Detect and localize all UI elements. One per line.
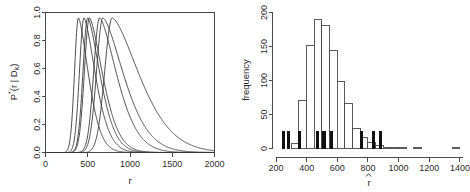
histogram-bar <box>337 82 345 149</box>
density-ytick-3: 0.6 <box>32 62 42 75</box>
ylabel-close: ) <box>8 64 19 67</box>
histogram-xtick-label-5: 1200 <box>419 163 439 173</box>
histogram-panel: 0 50 100 150 200 frequency 2004006008001… <box>235 0 470 192</box>
density-ytick-5: 1.0 <box>32 6 42 19</box>
histogram-bar <box>399 148 407 149</box>
density-y-axis-title: P*(r | Dk) <box>7 64 20 101</box>
density-xtick-3: 1500 <box>162 159 182 169</box>
density-x-ticks <box>46 153 215 157</box>
density-xtick-2: 1000 <box>120 159 140 169</box>
histogram-xtick-label-1: 400 <box>299 163 314 173</box>
rhat-letter: r <box>367 177 370 188</box>
histogram-xtick-label-3: 800 <box>360 163 375 173</box>
histogram-bar <box>322 26 330 149</box>
histogram-bar <box>345 103 353 148</box>
histogram-plot-svg: 0 50 100 150 200 frequency 2004006008001… <box>235 0 470 192</box>
density-plot-svg: 0.0 0.2 0.4 0.6 0.8 1.0 P*(r | Dk) <box>0 0 235 192</box>
density-curve-group <box>46 18 215 153</box>
histogram-xtick-label-0: 200 <box>268 163 283 173</box>
figure-container: 0.0 0.2 0.4 0.6 0.8 1.0 P*(r | Dk) <box>0 0 470 192</box>
histogram-bar-group <box>291 20 460 149</box>
density-y-tick-labels: 0.0 0.2 0.4 0.6 0.8 1.0 <box>32 6 42 159</box>
curve-1 <box>46 18 215 152</box>
density-xtick-1: 500 <box>80 159 95 169</box>
histogram-bar <box>314 20 322 149</box>
histogram-xtick-label-6: 1400 <box>450 163 470 173</box>
histogram-bar <box>307 45 315 148</box>
density-x-axis-title: r <box>128 175 131 186</box>
histogram-ytick-2: 100 <box>259 73 269 88</box>
density-xtick-0: 0 <box>43 159 48 169</box>
density-xtick-4: 2000 <box>204 159 224 169</box>
histogram-xtick-label-4: 1000 <box>389 163 409 173</box>
histogram-bar <box>353 129 361 149</box>
histogram-y-tick-labels: 0 50 100 150 200 <box>259 5 269 151</box>
density-ytick-2: 0.4 <box>32 90 42 103</box>
histogram-x-ticks: 200400600800100012001400 <box>268 158 469 174</box>
density-ytick-4: 0.8 <box>32 34 42 47</box>
density-x-tick-labels: 0 500 1000 1500 2000 <box>43 159 225 169</box>
histogram-xtick-label-2: 600 <box>330 163 345 173</box>
histogram-bar <box>291 144 299 149</box>
histogram-bar <box>414 147 422 148</box>
histogram-bar <box>452 148 460 149</box>
svg-text:P*(r | Dk): P*(r | Dk) <box>7 64 20 101</box>
histogram-bar <box>391 148 399 149</box>
histogram-ytick-1: 50 <box>259 109 269 119</box>
histogram-ytick-3: 150 <box>259 39 269 54</box>
density-panel: 0.0 0.2 0.4 0.6 0.8 1.0 P*(r | Dk) <box>0 0 235 192</box>
histogram-ytick-4: 200 <box>259 5 269 20</box>
histogram-x-axis-title: r <box>366 174 371 188</box>
histogram-ytick-0: 0 <box>259 146 269 151</box>
histogram-y-axis-title: frequency <box>240 59 251 101</box>
density-ytick-0: 0.0 <box>32 146 42 159</box>
histogram-bar <box>383 147 391 148</box>
density-ytick-1: 0.2 <box>32 118 42 131</box>
ylabel-arg: (r | D <box>8 70 19 91</box>
